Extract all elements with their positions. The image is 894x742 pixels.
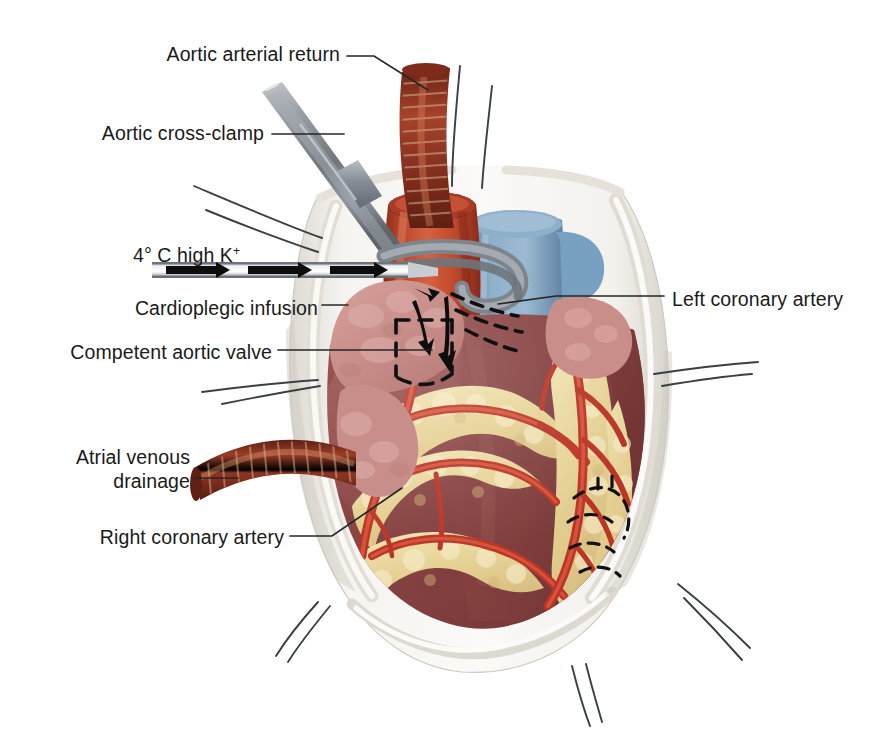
label-cardioplegic-infusion: Cardioplegic infusion — [0, 297, 318, 321]
label-competent-aortic-valve-text: Competent aortic valve — [70, 341, 272, 363]
label-cardioplegia-solution-text: 4° C high K — [133, 244, 233, 266]
label-competent-aortic-valve: Competent aortic valve — [0, 341, 272, 365]
label-right-coronary-artery-text: Right coronary artery — [100, 526, 284, 548]
label-atrial-venous-drainage: Atrial venous drainage — [0, 446, 190, 494]
label-aortic-arterial-return-text: Aortic arterial return — [167, 43, 340, 65]
label-aortic-cross-clamp: Aortic cross-clamp — [0, 122, 264, 146]
label-right-coronary-artery: Right coronary artery — [0, 526, 284, 550]
label-left-coronary-artery-text: Left coronary artery — [672, 288, 843, 310]
label-cardioplegic-infusion-text: Cardioplegic infusion — [135, 297, 318, 319]
label-aortic-arterial-return: Aortic arterial return — [0, 43, 340, 67]
label-aortic-cross-clamp-text: Aortic cross-clamp — [102, 122, 264, 144]
label-atrial-venous-drainage-line2: drainage — [0, 470, 190, 494]
label-atrial-venous-drainage-line1: Atrial venous — [0, 446, 190, 470]
label-cardioplegia-superscript: + — [233, 244, 240, 258]
illustration-artwork — [0, 0, 894, 742]
label-cardioplegia-solution: 4° C high K+ — [133, 244, 240, 268]
label-left-coronary-artery: Left coronary artery — [672, 288, 843, 312]
cardioplegia-illustration: Aortic arterial return Aortic cross-clam… — [0, 0, 894, 742]
